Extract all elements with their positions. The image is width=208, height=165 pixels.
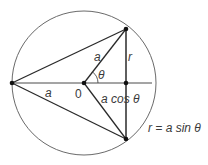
label-formula: r = a sin θ	[148, 121, 201, 135]
label-radius-a: a	[45, 86, 52, 100]
label-radius-slant-a: a	[94, 50, 101, 64]
point-bottom	[124, 137, 129, 142]
diagram-canvas: a 0 a θ r a cos θ r = a sin θ	[0, 0, 208, 165]
point-top	[124, 27, 129, 32]
label-center-0: 0	[75, 87, 82, 101]
label-a-cos-theta: a cos θ	[101, 92, 140, 106]
point-foot	[124, 81, 129, 86]
label-angle-theta: θ	[98, 68, 105, 82]
radius-top-line	[84, 29, 126, 83]
point-center	[82, 81, 87, 86]
point-left	[10, 81, 15, 86]
label-r: r	[128, 50, 133, 64]
